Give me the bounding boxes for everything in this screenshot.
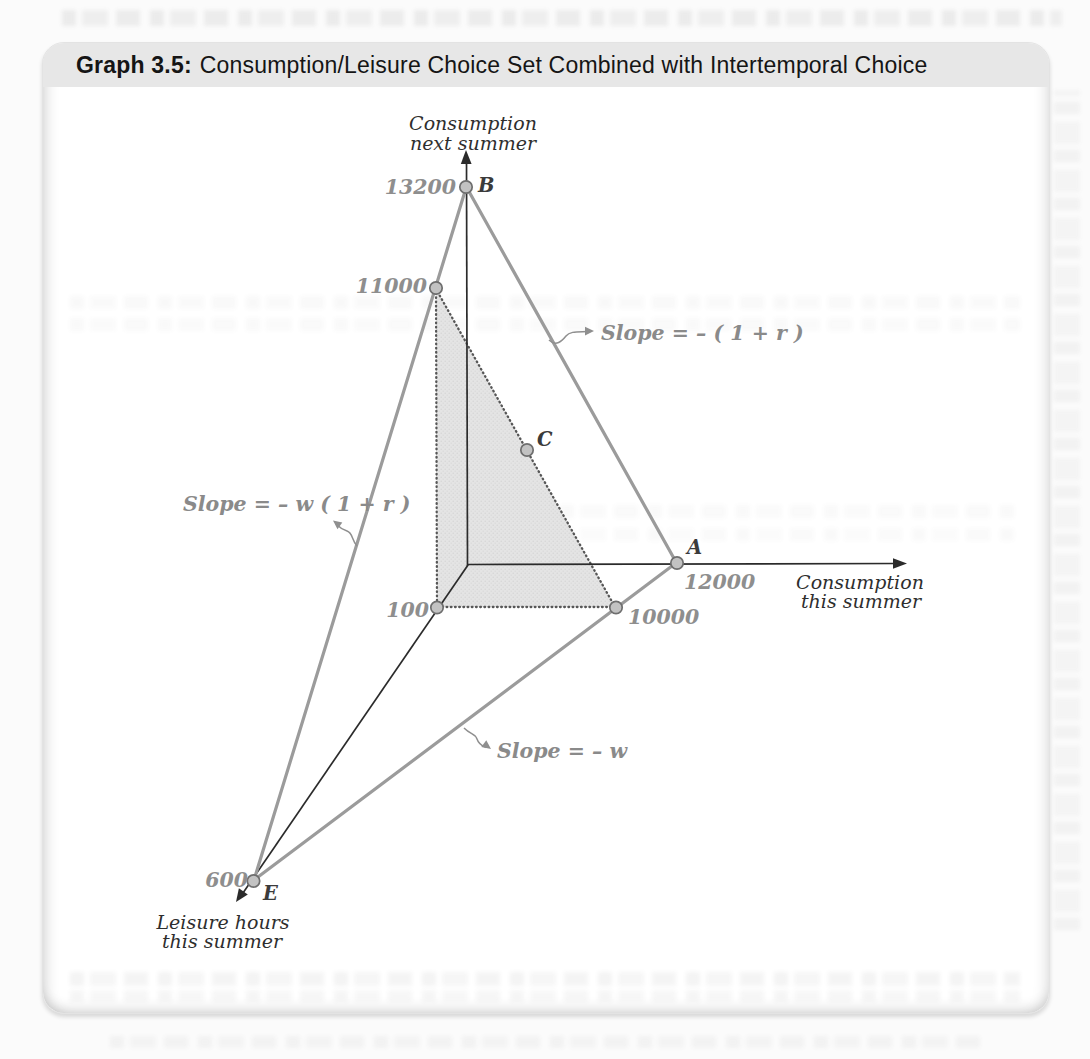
value-12000: 12000	[684, 570, 756, 594]
y-axis-title-line1: Consumption	[409, 112, 537, 134]
value-600: 600	[205, 868, 249, 892]
y-axis	[467, 162, 468, 566]
leader-slope-BA	[549, 332, 588, 344]
leader-arrow-icon	[481, 740, 491, 749]
point-A-label: A	[685, 536, 702, 559]
value-13200: 13200	[385, 175, 457, 199]
value-100: 100	[386, 598, 430, 622]
x-axis-title-line2: this summer	[801, 590, 923, 612]
point-10000-marker	[610, 601, 622, 613]
value-11000: 11000	[356, 274, 428, 298]
point-B-marker	[460, 181, 472, 193]
point-E-marker	[247, 875, 259, 887]
leisure-axis-title-line2: this summer	[162, 930, 284, 952]
slope-label-AE: Slope = – w	[497, 739, 628, 763]
leader-arrow-icon	[585, 327, 594, 336]
choice-set-graph: 13200 11000 12000 10000 100 600 B C A E …	[0, 0, 1090, 1059]
point-C-label: C	[537, 428, 553, 451]
leisure-axis	[243, 565, 468, 893]
point-A-marker	[671, 557, 683, 569]
point-100-marker	[431, 601, 443, 613]
point-E-label: E	[262, 882, 279, 905]
slope-label-BE: Slope = – w ( 1 + r )	[183, 492, 410, 516]
point-C-marker	[521, 444, 533, 456]
y-axis-title-line2: next summer	[410, 132, 538, 154]
leader-slope-BE	[336, 524, 357, 546]
value-10000: 10000	[628, 605, 700, 629]
point-11000-marker	[430, 282, 442, 294]
leader-slope-AE	[464, 728, 486, 748]
point-B-label: B	[477, 174, 494, 197]
x-axis-arrowhead	[893, 558, 907, 569]
slope-label-BA: Slope = – ( 1 + r )	[601, 321, 804, 345]
